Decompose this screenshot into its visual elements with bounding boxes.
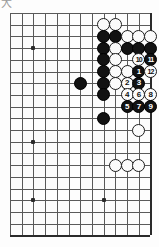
move-number-label: 5 <box>125 103 129 111</box>
star-point <box>31 46 35 50</box>
move-number-label: 1 <box>137 68 141 76</box>
star-point <box>31 198 35 202</box>
black-stone[interactable] <box>109 30 122 43</box>
white-stone[interactable] <box>144 30 157 43</box>
grid-line-horizontal <box>10 235 150 237</box>
go-board[interactable]: 123456789101112 <box>0 0 159 247</box>
grid-line-vertical <box>22 13 23 235</box>
move-number-label: 7 <box>137 103 141 111</box>
grid-line-vertical <box>45 13 46 235</box>
grid-line-vertical <box>57 13 58 235</box>
star-point <box>31 140 35 144</box>
white-stone[interactable] <box>132 124 145 137</box>
move-number-label: 4 <box>125 91 129 99</box>
white-stone[interactable] <box>109 159 122 172</box>
move-number-label: 8 <box>148 91 152 99</box>
white-stone[interactable] <box>132 159 145 172</box>
black-stone[interactable] <box>97 112 110 125</box>
move-stone-12[interactable]: 12 <box>144 65 157 78</box>
grid-line-vertical <box>69 13 70 235</box>
black-stone[interactable] <box>97 88 110 101</box>
move-number-label: 2 <box>125 79 129 87</box>
star-point <box>102 198 106 202</box>
black-stone[interactable] <box>74 77 87 90</box>
grid-line-vertical <box>80 13 81 235</box>
white-stone[interactable] <box>109 77 122 90</box>
go-diagram-figure: 大 123456789101112 <box>0 0 159 247</box>
move-number-label: 9 <box>148 103 152 111</box>
move-number-label: 10 <box>136 56 142 63</box>
grid-line-vertical <box>92 13 93 235</box>
move-number-label: 12 <box>147 68 153 75</box>
move-stone-9[interactable]: 9 <box>144 100 157 113</box>
grid-line-vertical <box>10 13 11 235</box>
move-number-label: 11 <box>148 56 153 63</box>
move-number-label: 6 <box>137 91 141 99</box>
move-number-label: 3 <box>137 79 141 87</box>
